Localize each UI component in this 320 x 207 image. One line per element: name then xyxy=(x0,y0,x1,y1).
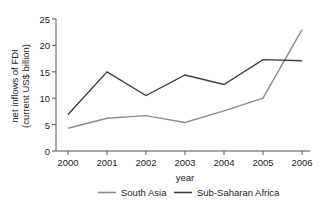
y-tick-label: 5 xyxy=(45,120,50,131)
x-tick-label: 2002 xyxy=(135,157,156,168)
x-tick-label: 2001 xyxy=(96,157,117,168)
fdi-line-chart: net inflows of FDI (current US$ billion)… xyxy=(0,0,320,207)
x-axis-title: year xyxy=(176,172,194,183)
y-axis-title: net inflows of FDI (current US$ billion) xyxy=(9,44,31,128)
x-axis-tick-labels: 2000 2001 2002 2003 2004 2005 2006 xyxy=(57,157,312,168)
y-tick-label: 20 xyxy=(39,40,50,51)
legend-label-sub-saharan-africa: Sub-Saharan Africa xyxy=(197,187,280,198)
y-tick-label: 10 xyxy=(39,93,50,104)
series-line-south-asia xyxy=(68,30,302,129)
y-axis-title-line1: net inflows of FDI xyxy=(9,49,20,122)
y-axis-tick-labels: 25 20 15 10 5 0 xyxy=(39,14,50,157)
series-line-sub-saharan-africa xyxy=(68,60,302,115)
x-tick-label: 2005 xyxy=(252,157,273,168)
y-axis-ticks xyxy=(52,19,56,151)
y-tick-label: 0 xyxy=(45,146,50,157)
chart-legend: South Asia Sub-Saharan Africa xyxy=(98,187,280,198)
x-tick-label: 2004 xyxy=(213,157,234,168)
x-tick-label: 2006 xyxy=(291,157,312,168)
legend-label-south-asia: South Asia xyxy=(121,187,167,198)
y-tick-label: 25 xyxy=(39,14,50,25)
y-axis-title-line2: (current US$ billion) xyxy=(20,44,31,128)
x-tick-label: 2000 xyxy=(57,157,78,168)
x-axis-ticks xyxy=(68,151,302,155)
x-tick-label: 2003 xyxy=(174,157,195,168)
y-tick-label: 15 xyxy=(39,67,50,78)
chart-canvas: net inflows of FDI (current US$ billion)… xyxy=(0,0,320,207)
